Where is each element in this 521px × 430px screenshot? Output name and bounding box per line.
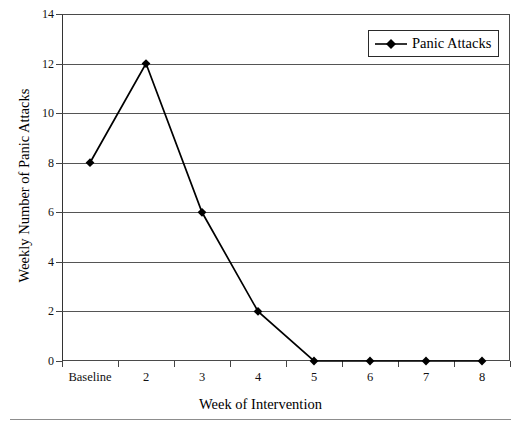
- legend: Panic Attacks: [368, 30, 499, 57]
- y-axis-line: [62, 14, 63, 362]
- y-axis-tick: [56, 64, 63, 65]
- y-axis-tick-label: 14: [14, 8, 54, 20]
- gridline: [63, 311, 509, 312]
- y-axis-tick: [56, 262, 63, 263]
- y-axis-tick: [56, 311, 63, 312]
- figure-bottom-rule: [10, 419, 511, 420]
- chart-figure: 02468101214 Weekly Number of Panic Attac…: [0, 0, 521, 430]
- plot-area: [62, 14, 510, 361]
- y-axis-tick-label: 2: [14, 305, 54, 317]
- y-axis-title: Weekly Number of Panic Attacks: [17, 66, 32, 306]
- x-axis-tick: [118, 361, 119, 367]
- y-axis-tick-label: 0: [14, 355, 54, 367]
- x-axis-tick: [62, 361, 63, 367]
- gridline: [63, 64, 509, 65]
- gridline: [63, 212, 509, 213]
- y-axis-tick: [56, 212, 63, 213]
- gridline: [63, 262, 509, 263]
- x-axis-tick: [174, 361, 175, 367]
- y-axis-tick: [56, 113, 63, 114]
- x-axis-tick: [454, 361, 455, 367]
- x-axis-title: Week of Intervention: [0, 396, 521, 412]
- y-axis-tick: [56, 163, 63, 164]
- x-axis-tick: [286, 361, 287, 367]
- x-axis-tick-label: 8: [447, 370, 517, 384]
- legend-label: Panic Attacks: [412, 36, 491, 51]
- x-axis-tick: [510, 361, 511, 367]
- x-axis-tick: [398, 361, 399, 367]
- gridline: [63, 113, 509, 114]
- x-axis-tick: [230, 361, 231, 367]
- x-axis-tick: [342, 361, 343, 367]
- gridline: [63, 163, 509, 164]
- filled-diamond-marker-icon: [374, 37, 408, 51]
- y-axis-tick: [56, 14, 63, 15]
